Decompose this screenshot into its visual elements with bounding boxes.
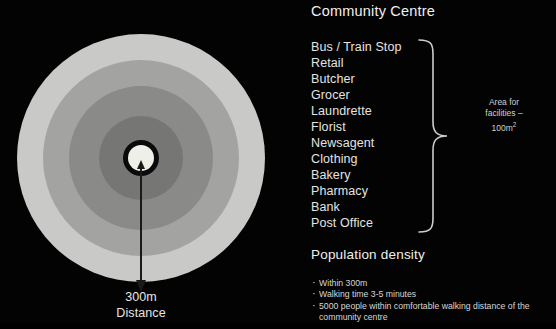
area-note-line3: 100m	[492, 123, 513, 133]
area-note: Area for facilities – 100m2	[461, 97, 547, 134]
distance-arrow-icon	[132, 160, 150, 292]
list-item: Bakery	[311, 167, 402, 183]
list-item: Grocer	[311, 87, 402, 103]
facility-list: Bus / Train Stop Retail Butcher Grocer L…	[311, 39, 402, 231]
list-item: Bus / Train Stop	[311, 39, 402, 55]
slide-canvas: 300m Distance Community Centre Bus / Tra…	[0, 0, 556, 329]
section-title-population: Population density	[311, 247, 425, 262]
list-item: Butcher	[311, 71, 402, 87]
list-item: Florist	[311, 119, 402, 135]
distance-label: 300m Distance	[0, 289, 282, 321]
distance-caption: Distance	[0, 305, 282, 321]
list-item: Newsagent	[311, 135, 402, 151]
list-item: Retail	[311, 55, 402, 71]
list-item: Post Office	[311, 215, 402, 231]
catchment-diagram: 300m Distance	[0, 0, 300, 329]
list-item: 5000 people within comfortable walking d…	[311, 301, 556, 324]
right-column: Community Centre Bus / Train Stop Retail…	[309, 0, 556, 329]
bottom-edge-bar	[0, 322, 556, 329]
list-item: Pharmacy	[311, 183, 402, 199]
distance-value: 300m	[0, 289, 282, 305]
page-title: Community Centre	[311, 3, 435, 19]
list-item: Within 300m	[311, 278, 556, 289]
list-item: Walking time 3-5 minutes	[311, 289, 556, 300]
curly-brace-icon	[417, 38, 455, 234]
list-item: Laundrette	[311, 103, 402, 119]
area-note-line1: Area for	[489, 97, 519, 107]
area-note-line2: facilities –	[485, 108, 522, 118]
list-item: Clothing	[311, 151, 402, 167]
area-note-superscript: 2	[513, 121, 517, 128]
list-item: Bank	[311, 199, 402, 215]
population-bullet-list: Within 300m Walking time 3-5 minutes 500…	[311, 278, 556, 324]
